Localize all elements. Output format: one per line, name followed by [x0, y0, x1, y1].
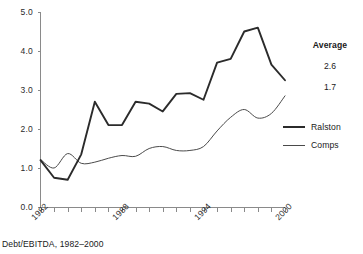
x-axis-ticks [42, 208, 286, 212]
y-tick-label: 4.0 [11, 46, 33, 56]
legend-item-comps: Comps [283, 136, 361, 154]
average-panel-title: Average [300, 40, 360, 50]
series-line-ralston [41, 28, 286, 180]
series-line-comps [41, 96, 286, 168]
legend-label-ralston: Ralston [311, 122, 341, 132]
legend-label-comps: Comps [311, 140, 339, 150]
chart-legend: Ralston Comps [283, 118, 361, 154]
chart-figure: 5.04.03.02.01.00.0 1982198819942000 Aver… [0, 0, 363, 254]
legend-swatch-ralston-icon [283, 126, 305, 128]
average-value-comps: 1.7 [300, 82, 360, 92]
legend-swatch-comps-icon [283, 145, 305, 146]
y-tick-label: 3.0 [11, 85, 33, 95]
average-value-ralston: 2.6 [300, 61, 360, 71]
y-tick-label: 5.0 [11, 7, 33, 17]
legend-item-ralston: Ralston [283, 118, 361, 136]
chart-caption: Debt/EBITDA, 1982–2000 [2, 239, 104, 249]
y-tick-label: 2.0 [11, 124, 33, 134]
y-tick-label: 0.0 [11, 202, 33, 212]
y-tick-label: 1.0 [11, 163, 33, 173]
data-series-group [41, 28, 286, 180]
average-panel: Average 2.6 1.7 [300, 40, 360, 92]
